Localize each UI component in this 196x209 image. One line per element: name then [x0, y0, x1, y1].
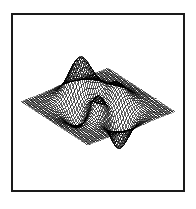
- mesh-grid-lines: [21, 56, 175, 148]
- mesh-surface-plot: [13, 15, 183, 190]
- figure-frame-border: [11, 13, 185, 192]
- figure-window: [0, 0, 196, 209]
- plot-area: [13, 15, 183, 190]
